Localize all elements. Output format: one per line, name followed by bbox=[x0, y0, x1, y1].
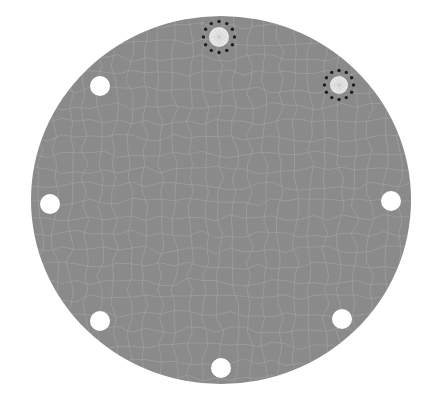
hole-lower-left bbox=[90, 311, 110, 331]
marker-dot bbox=[350, 91, 353, 94]
marker-dot bbox=[231, 43, 234, 46]
marker-dot bbox=[323, 83, 326, 86]
hole-left bbox=[40, 194, 60, 214]
marker-dot bbox=[345, 96, 348, 99]
marker-dot bbox=[231, 28, 234, 31]
marker-dot bbox=[210, 22, 213, 25]
marker-dot bbox=[202, 35, 205, 38]
marker-dot bbox=[345, 71, 348, 74]
marker-dot bbox=[325, 91, 328, 94]
hole-circle bbox=[90, 76, 110, 96]
hole-upper-left bbox=[90, 76, 110, 96]
marker-dot bbox=[225, 22, 228, 25]
marker-dot bbox=[352, 83, 355, 86]
marker-dot bbox=[204, 28, 207, 31]
marker-dot bbox=[325, 76, 328, 79]
hole-circle bbox=[90, 311, 110, 331]
marker-dot bbox=[233, 35, 236, 38]
hole-circle bbox=[381, 191, 401, 211]
hole-circle bbox=[40, 194, 60, 214]
hole-right bbox=[381, 191, 401, 211]
marker-dot bbox=[350, 76, 353, 79]
marker-dot bbox=[204, 43, 207, 46]
hole-circle bbox=[332, 309, 352, 329]
marker-dot bbox=[225, 49, 228, 52]
marker-dot bbox=[217, 51, 220, 54]
hole-circle bbox=[211, 358, 231, 378]
hole-lower-right bbox=[332, 309, 352, 329]
marker-dot bbox=[217, 20, 220, 23]
marker-dot bbox=[330, 96, 333, 99]
marker-dot bbox=[337, 69, 340, 72]
hole-bottom bbox=[211, 358, 231, 378]
marker-dot bbox=[337, 98, 340, 101]
plate-diagram bbox=[0, 0, 435, 406]
marker-dot bbox=[330, 71, 333, 74]
marker-dot bbox=[210, 49, 213, 52]
